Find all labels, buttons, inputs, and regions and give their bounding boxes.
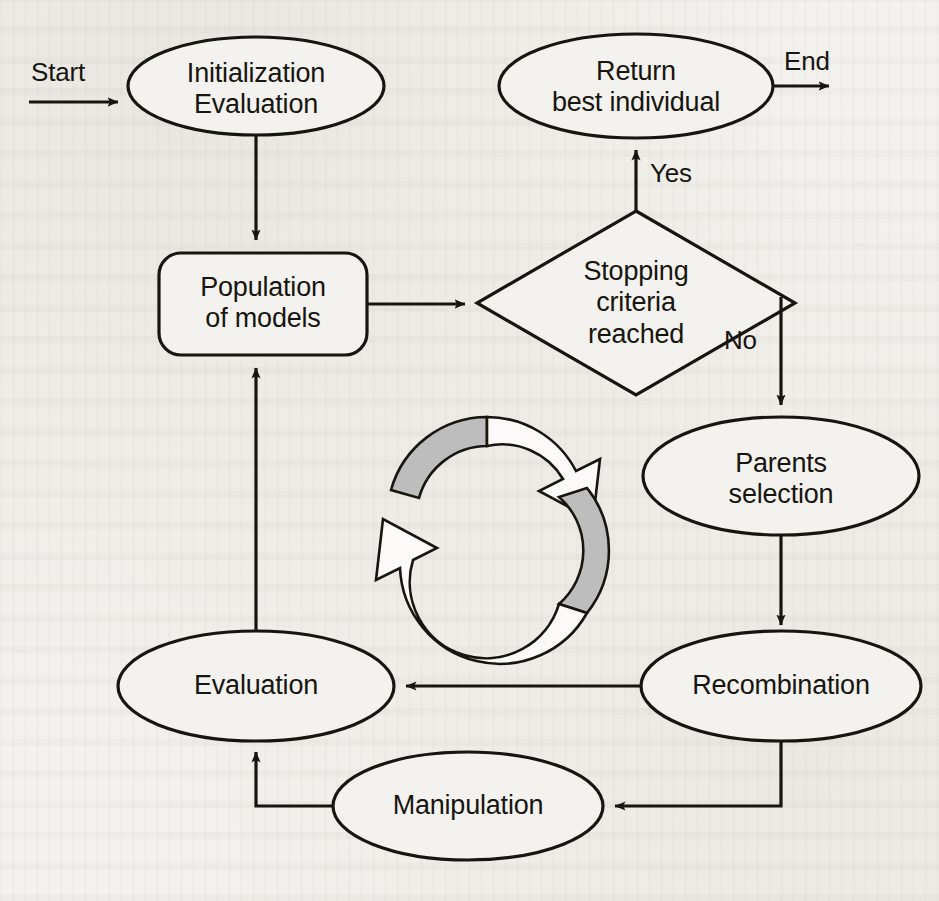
edge-manipulation-to-evaluation bbox=[256, 752, 333, 806]
node-evaluation bbox=[118, 631, 394, 741]
node-manipulation bbox=[333, 752, 603, 860]
node-stopping-criteria bbox=[477, 211, 795, 395]
node-initialization bbox=[128, 37, 384, 135]
flowchart-canvas bbox=[0, 0, 939, 901]
node-population bbox=[159, 253, 367, 355]
flowchart-page: Initialization Evaluation Return best in… bbox=[0, 0, 939, 901]
node-parents-selection bbox=[643, 417, 919, 535]
edge-recombination-to-manipulation bbox=[615, 741, 781, 806]
node-return-best bbox=[499, 34, 773, 138]
circular-refresh-arrows-icon bbox=[376, 417, 609, 664]
node-recombination bbox=[641, 631, 921, 741]
